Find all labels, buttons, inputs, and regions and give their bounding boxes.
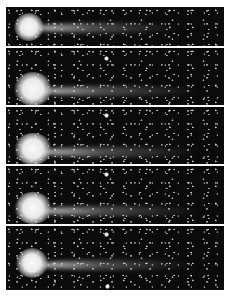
comet-tail: [36, 86, 201, 96]
comet-tail: [36, 147, 201, 157]
comet-tail: [32, 23, 182, 33]
comet-frame-3: [6, 107, 224, 164]
comet-tail: [36, 206, 201, 216]
comet-frame-5: [6, 226, 224, 290]
comet-coma: [14, 13, 44, 41]
bright-star: [104, 113, 109, 118]
comet-coma: [16, 248, 48, 278]
bright-star: [104, 56, 109, 61]
comet-coma: [14, 192, 52, 224]
comet-frame-1: [6, 7, 224, 46]
comet-coma: [14, 133, 52, 164]
bright-star: [105, 284, 110, 289]
bright-star: [104, 172, 109, 177]
bright-star: [104, 232, 109, 237]
comet-frame-4: [6, 166, 224, 224]
comet-frame-2: [6, 48, 224, 105]
comet-tail: [36, 260, 196, 270]
comet-coma: [14, 72, 52, 105]
